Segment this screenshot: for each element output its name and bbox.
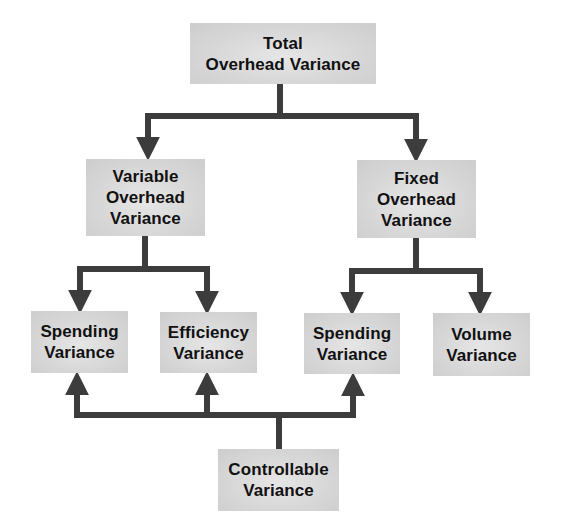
- overhead-variance-diagram: Total Overhead Variance Variable Overhea…: [0, 0, 564, 529]
- connector-controllable-to-var-spending: [77, 382, 279, 415]
- node-label: Total Overhead Variance: [206, 33, 361, 75]
- connector-fixed-to-volume: [416, 271, 480, 305]
- node-label: Controllable Variance: [228, 459, 328, 501]
- node-volume-variance: Volume Variance: [433, 313, 530, 376]
- connector-controllable-to-fix-spending: [279, 383, 353, 415]
- node-efficiency-variance: Efficiency Variance: [160, 312, 257, 373]
- node-variable-overhead-variance: Variable Overhead Variance: [86, 159, 205, 236]
- node-label: Efficiency Variance: [168, 322, 249, 364]
- node-fixed-overhead-variance: Fixed Overhead Variance: [357, 160, 476, 238]
- node-variable-spending-variance: Spending Variance: [31, 311, 128, 373]
- node-label: Fixed Overhead Variance: [377, 168, 456, 231]
- connector-fixed-to-spending: [352, 271, 416, 305]
- connector-total-to-fixed: [280, 116, 416, 152]
- connector-variable-to-efficiency: [145, 269, 207, 304]
- node-label: Volume Variance: [446, 324, 517, 366]
- node-label: Variable Overhead Variance: [106, 166, 185, 229]
- node-total-overhead-variance: Total Overhead Variance: [190, 23, 376, 84]
- node-label: Spending Variance: [40, 321, 118, 363]
- node-label: Spending Variance: [313, 323, 391, 365]
- connector-variable-to-spending: [80, 269, 145, 303]
- node-fixed-spending-variance: Spending Variance: [304, 313, 400, 374]
- connector-total-to-variable: [148, 116, 280, 150]
- node-controllable-variance: Controllable Variance: [218, 449, 339, 511]
